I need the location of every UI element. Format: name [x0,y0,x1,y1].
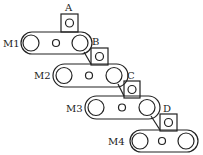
box [61,14,78,32]
roller [53,40,60,47]
pulley [178,133,194,149]
pulley [106,68,122,84]
box-dot [66,19,74,27]
box [91,48,108,65]
conveyor-m4: M4 [108,130,198,152]
box-dot [128,86,136,94]
pulley [23,35,39,51]
box-label: D [163,103,171,114]
conveyor-m1: M1 [3,32,92,54]
machine-label: M4 [108,136,125,147]
roller [159,138,166,145]
pulley [139,100,155,116]
box-a: A [61,2,78,32]
chute-c-d [151,116,160,130]
roller [119,104,126,111]
box-label: B [92,36,99,47]
chute-a-b [84,52,91,64]
box-d: D [160,103,177,131]
box-c: C [124,70,140,98]
box-label: C [127,70,135,81]
box-label: A [64,2,73,13]
box [160,114,177,131]
roller [86,72,93,79]
box-b: B [91,36,108,65]
pulley [56,68,72,84]
conveyor-m2: M2 [34,64,128,87]
box-dot [165,119,173,127]
pulley [132,133,148,149]
conveyor-m3: M3 [66,96,160,119]
pulley [88,100,104,116]
pulley [72,35,88,51]
machine-label: M1 [3,38,20,49]
machine-label: M3 [66,103,83,114]
conveyor-diagram: M1 A M2 B M3 C M4 [0,0,203,155]
machine-label: M2 [34,70,51,81]
box-dot [96,53,104,61]
